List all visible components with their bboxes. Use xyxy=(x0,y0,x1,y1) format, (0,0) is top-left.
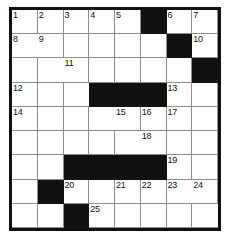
crossword-cell[interactable]: 11 xyxy=(64,58,90,82)
crossword-cell[interactable] xyxy=(89,107,115,131)
cell-number: 21 xyxy=(116,180,126,190)
crossword-cell[interactable] xyxy=(167,204,193,228)
crossword-cell[interactable]: 10 xyxy=(192,34,218,58)
crossword-block-cell xyxy=(89,155,115,179)
crossword-cell[interactable]: 25 xyxy=(89,204,115,228)
crossword-cell[interactable]: 6 xyxy=(167,10,193,34)
cell-number: 18 xyxy=(142,131,152,141)
crossword-cell[interactable]: 12 xyxy=(12,83,38,107)
cell-number: 9 xyxy=(39,34,44,44)
crossword-cell[interactable]: 17 xyxy=(167,107,193,131)
crossword-cell[interactable] xyxy=(89,34,115,58)
crossword-block-cell xyxy=(89,83,115,107)
crossword-cell[interactable]: 15 xyxy=(115,107,141,131)
crossword-cell[interactable] xyxy=(192,131,218,155)
crossword-cell[interactable] xyxy=(38,204,64,228)
crossword-cell[interactable] xyxy=(38,155,64,179)
crossword-cell[interactable]: 22 xyxy=(141,180,167,204)
crossword-cell[interactable] xyxy=(64,34,90,58)
crossword-cell[interactable]: 7 xyxy=(192,10,218,34)
crossword-cell[interactable]: 16 xyxy=(141,107,167,131)
crossword-cell[interactable] xyxy=(89,180,115,204)
cell-number: 20 xyxy=(65,180,75,190)
crossword-cell[interactable]: 2 xyxy=(38,10,64,34)
crossword-block-cell xyxy=(141,83,167,107)
crossword-cell[interactable]: 14 xyxy=(12,107,38,131)
crossword-cell[interactable] xyxy=(89,58,115,82)
cell-number: 5 xyxy=(116,10,121,20)
crossword-cell[interactable] xyxy=(64,83,90,107)
cell-number: 24 xyxy=(193,180,203,190)
crossword-cell[interactable]: 20 xyxy=(64,180,90,204)
crossword-cell[interactable] xyxy=(115,204,141,228)
crossword-cell[interactable]: 5 xyxy=(115,10,141,34)
crossword-cell[interactable]: 3 xyxy=(64,10,90,34)
crossword-cell[interactable] xyxy=(167,131,193,155)
crossword-block-cell xyxy=(141,155,167,179)
crossword-block-cell xyxy=(115,83,141,107)
cell-number: 15 xyxy=(116,107,126,117)
crossword-block-cell xyxy=(141,10,167,34)
crossword-puzzle: 1234567891011121314151617181920212223242… xyxy=(0,0,229,239)
crossword-block-cell xyxy=(167,34,193,58)
cell-number: 14 xyxy=(13,107,23,117)
crossword-block-cell xyxy=(64,204,90,228)
cell-number: 16 xyxy=(142,107,152,117)
crossword-cell[interactable] xyxy=(64,107,90,131)
cell-number: 25 xyxy=(90,204,100,214)
crossword-cell[interactable] xyxy=(12,131,38,155)
crossword-cell[interactable]: 8 xyxy=(12,34,38,58)
crossword-block-cell xyxy=(38,180,64,204)
crossword-cell[interactable] xyxy=(12,155,38,179)
cell-number: 4 xyxy=(90,10,95,20)
crossword-cell[interactable] xyxy=(141,204,167,228)
crossword-block-cell xyxy=(64,155,90,179)
crossword-cell[interactable] xyxy=(38,131,64,155)
crossword-cell[interactable] xyxy=(141,34,167,58)
cell-number: 7 xyxy=(193,10,198,20)
crossword-cell[interactable] xyxy=(115,34,141,58)
crossword-cell[interactable] xyxy=(192,155,218,179)
crossword-cell[interactable]: 13 xyxy=(167,83,193,107)
crossword-cell[interactable] xyxy=(38,107,64,131)
crossword-cell[interactable]: 9 xyxy=(38,34,64,58)
cell-number: 8 xyxy=(13,34,18,44)
cell-number: 13 xyxy=(168,83,178,93)
crossword-cell[interactable]: 19 xyxy=(167,155,193,179)
crossword-cell[interactable]: 4 xyxy=(89,10,115,34)
crossword-cell[interactable]: 21 xyxy=(115,180,141,204)
crossword-cell[interactable]: 24 xyxy=(192,180,218,204)
crossword-cell[interactable] xyxy=(115,58,141,82)
cell-number: 1 xyxy=(13,10,18,20)
cell-number: 23 xyxy=(168,180,178,190)
crossword-cell[interactable] xyxy=(38,58,64,82)
cell-number: 22 xyxy=(142,180,152,190)
crossword-grid[interactable]: 1234567891011121314151617181920212223242… xyxy=(9,7,221,231)
crossword-block-cell xyxy=(115,155,141,179)
crossword-cell[interactable] xyxy=(192,107,218,131)
crossword-cell[interactable] xyxy=(115,131,141,155)
crossword-cell[interactable] xyxy=(192,83,218,107)
cell-number: 3 xyxy=(65,10,70,20)
crossword-cell[interactable] xyxy=(141,58,167,82)
crossword-cell[interactable] xyxy=(64,131,90,155)
cell-number: 2 xyxy=(39,10,44,20)
crossword-cell[interactable] xyxy=(167,58,193,82)
cell-number: 17 xyxy=(168,107,178,117)
crossword-cell[interactable] xyxy=(89,131,115,155)
cell-number: 12 xyxy=(13,83,23,93)
crossword-cell[interactable]: 23 xyxy=(167,180,193,204)
crossword-cell[interactable]: 1 xyxy=(12,10,38,34)
crossword-cell[interactable] xyxy=(12,180,38,204)
crossword-block-cell xyxy=(192,58,218,82)
crossword-cell[interactable] xyxy=(12,58,38,82)
cell-number: 6 xyxy=(168,10,173,20)
cell-number: 10 xyxy=(193,34,203,44)
cell-number: 11 xyxy=(65,58,74,68)
crossword-cell[interactable] xyxy=(38,83,64,107)
crossword-cell[interactable] xyxy=(192,204,218,228)
cell-number: 19 xyxy=(168,155,178,165)
crossword-cell[interactable] xyxy=(12,204,38,228)
crossword-cell[interactable]: 18 xyxy=(141,131,167,155)
